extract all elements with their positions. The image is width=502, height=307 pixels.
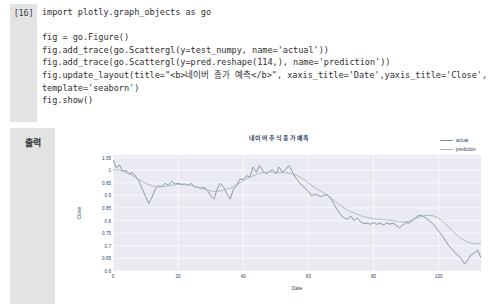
- code-editor[interactable]: import plotly.graph_objects as go fig = …: [42, 6, 498, 107]
- y-tick-label: 0.65: [61, 256, 113, 261]
- code-line: import plotly.graph_objects as go: [42, 6, 498, 19]
- code-line: fig = go.Figure(): [42, 31, 498, 44]
- x-tick-label: 40: [241, 274, 246, 279]
- notebook-cell: [16] import plotly.graph_objects as go f…: [0, 0, 502, 307]
- x-tick-label: 60: [306, 274, 311, 279]
- y-tick-label: 0.9: [61, 193, 113, 198]
- code-line-blank: [42, 19, 498, 32]
- output-gutter: [10, 128, 55, 304]
- x-tick-label: 80: [371, 274, 376, 279]
- code-line: fig.show(): [42, 94, 498, 107]
- y-tick-label: 1.05: [61, 155, 113, 160]
- code-line: fig.update_layout(title="<b>네이버 종가 예측</b…: [42, 69, 498, 82]
- cell-gutter: [10, 4, 37, 122]
- y-axis-title: Close: [76, 207, 82, 220]
- series-line-prediction: [113, 170, 481, 244]
- x-tick-label: 20: [176, 274, 181, 279]
- y-tick-label: 0.75: [61, 231, 113, 236]
- code-line: template='seaborn'): [42, 82, 498, 95]
- y-tick-label: 0.95: [61, 180, 113, 185]
- y-tick-label: 0.85: [61, 205, 113, 210]
- plotly-figure[interactable]: 네이버 주식 종가 예측 actual prediction 0.60.650.…: [57, 128, 502, 304]
- y-tick-label: 0.8: [61, 218, 113, 223]
- x-tick-label: 0: [112, 274, 115, 279]
- y-tick-label: 0.7: [61, 243, 113, 248]
- x-axis-title: Date: [113, 285, 481, 291]
- y-tick-label: 1: [61, 168, 113, 173]
- y-axis-ticks: 0.60.650.70.750.80.850.90.9511.05: [57, 155, 113, 271]
- plot-wrapper: 0.60.650.70.750.80.850.90.9511.05 020406…: [57, 128, 502, 304]
- code-line: fig.add_trace(go.Scattergl(y=pred.reshap…: [42, 56, 498, 69]
- x-axis-ticks: 020406080100: [113, 271, 481, 283]
- x-tick-label: 100: [435, 274, 443, 279]
- code-line: fig.add_trace(go.Scattergl(y=test_numpy,…: [42, 44, 498, 57]
- plot-canvas[interactable]: [113, 155, 481, 271]
- cell-execution-label[interactable]: [16]: [10, 8, 37, 18]
- y-tick-label: 0.6: [61, 269, 113, 274]
- output-label: 출력: [10, 136, 55, 149]
